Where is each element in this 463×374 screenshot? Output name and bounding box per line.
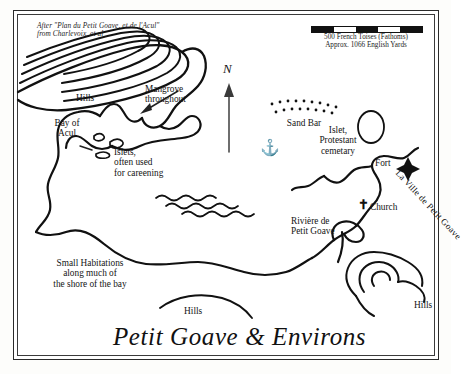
church-cross-icon: ✝ <box>358 198 369 211</box>
label-mangrove-line1: Mangrove <box>145 84 186 94</box>
source-credit-line2: from Charlevoix, et al <box>37 30 159 38</box>
islets-leader-arrow <box>80 146 92 150</box>
label-islets-line1: Islets, <box>114 147 163 157</box>
label-cemetary-line3: cemetary <box>307 146 369 156</box>
label-protestant-cemetary: Islet, Protestant cemetary <box>307 125 369 156</box>
southeast-hills-contours <box>346 252 424 316</box>
east-coastline <box>292 148 418 226</box>
label-hills-southeast: Hills <box>414 300 432 311</box>
water-wave-marks <box>156 196 254 217</box>
anchorage-icon: ⚓ <box>260 140 280 156</box>
map-title: Petit Goave & Environs <box>113 323 366 351</box>
scale-caption-line1: 500 French Toises (Fathoms) <box>301 33 431 41</box>
label-small-habitations: Small Habitations along much of the shor… <box>26 258 154 289</box>
label-bay-of-acul: Bay of Acul <box>40 118 94 139</box>
label-church: Church <box>370 202 397 212</box>
label-hills-northwest: Hills <box>76 93 94 104</box>
south-hills-arc <box>160 295 252 318</box>
label-bay-line2: Acul <box>40 128 94 138</box>
label-mangrove-line2: throughout <box>145 94 186 104</box>
label-cemetary-line2: Protestant <box>307 135 369 145</box>
label-bay-line1: Bay of <box>40 118 94 128</box>
label-cemetary-line1: Islet, <box>307 125 369 135</box>
label-riviere-petit-goave: Rivière de Petit Goave <box>291 216 335 237</box>
scale-bar <box>311 26 423 33</box>
source-credit: After "Plan du Petit Goave, et de l'Acul… <box>37 22 159 38</box>
label-islets-line3: for careening <box>114 168 163 178</box>
scale-caption-line2: Approx. 1066 English Yards <box>301 41 431 49</box>
label-islets: Islets, often used for careening <box>114 147 163 178</box>
label-mangrove: Mangrove throughout <box>145 84 186 105</box>
sand-bar-dots <box>271 100 338 115</box>
label-river-line1: Rivière de <box>291 216 335 226</box>
compass-north-label: N <box>223 62 232 77</box>
label-fort: Fort <box>375 158 391 168</box>
label-islets-line2: often used <box>114 157 163 167</box>
label-hills-south: Hills <box>184 306 202 317</box>
scale-caption: 500 French Toises (Fathoms) Approx. 1066… <box>301 33 431 49</box>
label-habitations-line1: Small Habitations <box>26 258 154 268</box>
north-arrow-icon <box>224 83 234 152</box>
label-habitations-line2: along much of <box>26 268 154 278</box>
label-habitations-line3: the shore of the bay <box>26 279 154 289</box>
label-river-line2: Petit Goave <box>291 226 335 236</box>
